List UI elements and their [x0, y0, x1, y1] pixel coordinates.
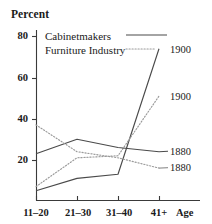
chart-container: Percent 80 60 40 20 11–20 21–30 31–40 41…: [0, 0, 212, 224]
end-label-cabinetmakers-1900: 1900: [170, 45, 191, 56]
y-tick-marks: [32, 37, 37, 161]
end-label-connectors: [159, 151, 168, 168]
x-tick-label-11-20: 11–20: [23, 208, 49, 219]
series-furniture-industry-1880: [36, 125, 159, 168]
end-label-furniture-industry-1880: 1880: [170, 163, 191, 174]
series-cabinetmakers-1880: [36, 139, 159, 153]
x-tick-label-31-40: 31–40: [106, 208, 132, 219]
series-cabinetmakers-1900: [36, 49, 159, 191]
x-tick-label-21-30: 21–30: [65, 208, 91, 219]
x-tick-marks: [37, 196, 160, 201]
y-tick-label-40: 40: [8, 114, 28, 125]
y-tick-label-60: 60: [8, 73, 28, 84]
y-axis-title: Percent: [11, 9, 49, 21]
end-label-furniture-industry-1900: 1900: [170, 92, 191, 103]
legend-label-cabinetmakers: Cabinetmakers: [45, 31, 111, 42]
end-label-cabinetmakers-1880: 1880: [170, 147, 191, 158]
series-furniture-industry-1900: [36, 96, 159, 187]
legend-label-furniture-industry: Furniture Industry: [45, 45, 125, 56]
y-tick-label-20: 20: [8, 155, 28, 166]
x-tick-label-41-plus: 41+: [151, 208, 167, 219]
x-axis-title: Age: [176, 208, 194, 219]
y-tick-label-80: 80: [8, 31, 28, 42]
